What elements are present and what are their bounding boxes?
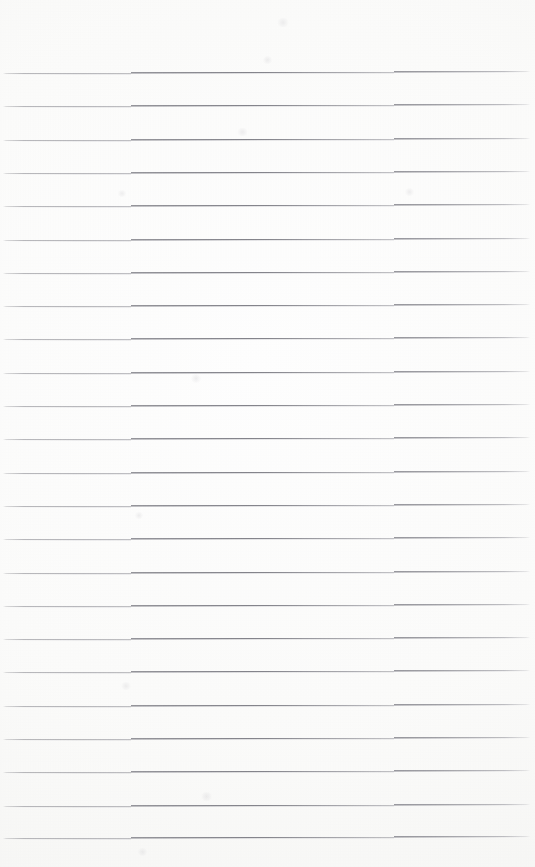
rule-line xyxy=(3,304,530,307)
rule-line xyxy=(3,571,530,574)
rule-line xyxy=(3,770,530,773)
scanned-ruled-page xyxy=(0,0,535,867)
rule-line xyxy=(3,104,530,107)
rule-line xyxy=(3,204,530,207)
rule-line xyxy=(3,537,530,540)
rule-line xyxy=(3,704,530,707)
rule-line xyxy=(3,371,530,374)
rule-line xyxy=(3,437,530,440)
rule-line xyxy=(3,171,530,174)
rule-line xyxy=(3,337,530,340)
ruled-lines-layer xyxy=(0,0,535,867)
rule-line xyxy=(3,271,530,274)
rule-line xyxy=(3,737,530,740)
rule-line xyxy=(3,238,530,241)
rule-line xyxy=(3,504,530,507)
rule-line xyxy=(3,836,530,839)
rule-line xyxy=(3,471,530,474)
rule-line xyxy=(3,404,530,407)
rule-line xyxy=(3,804,530,807)
rule-line xyxy=(3,138,530,141)
rule-line xyxy=(3,637,530,640)
rule-line xyxy=(3,604,530,607)
rule-line xyxy=(3,71,530,74)
rule-line xyxy=(3,670,530,673)
